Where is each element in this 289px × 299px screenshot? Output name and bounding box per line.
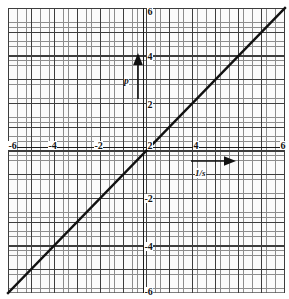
y-tick-label-4: 4 (147, 52, 153, 61)
y-axis (143, 8, 145, 293)
x-tick-label-6: 6 (280, 141, 286, 150)
x-tick-label-neg4: -4 (48, 141, 57, 150)
x-tick-label-neg6: -6 (8, 141, 17, 150)
y-tick-label-neg6: -6 (144, 287, 153, 296)
y-tick-label-neg2: -2 (144, 194, 153, 203)
graph-figure: -6 -4 -2 2 4 6 6 4 2 -2 -4 -6 p 1/s (0, 0, 289, 299)
y-tick-label-6: 6 (147, 7, 153, 16)
plot-area: -6 -4 -2 2 4 6 6 4 2 -2 -4 -6 (8, 8, 285, 293)
y-tick-label-2: 2 (147, 100, 153, 109)
y-tick-label-neg4: -4 (144, 242, 153, 251)
x-tick-label-4: 4 (193, 141, 199, 150)
major-gridlines (8, 8, 285, 293)
x-tick-label-neg2: -2 (94, 141, 103, 150)
data-line (8, 8, 285, 293)
series-line-0 (8, 8, 285, 293)
x-tick-label-2: 2 (147, 141, 153, 150)
x-axis (8, 147, 285, 149)
